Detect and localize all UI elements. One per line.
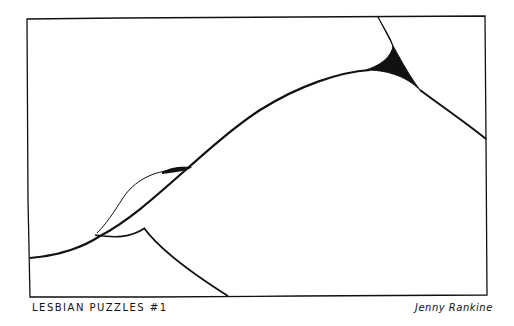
comic-title: LESBIAN PUZZLES #1 bbox=[32, 302, 168, 313]
comic-panel-drawing bbox=[0, 0, 514, 326]
thin-curve bbox=[97, 170, 172, 233]
main-curve bbox=[30, 70, 370, 258]
panel-frame bbox=[27, 16, 487, 297]
tapered-tip bbox=[162, 167, 192, 174]
lower-curve bbox=[95, 228, 145, 237]
lower-diagonal bbox=[144, 228, 228, 296]
black-wedge bbox=[366, 17, 420, 90]
right-diagonal bbox=[420, 90, 486, 139]
comic-author: Jenny Rankine bbox=[415, 302, 493, 313]
